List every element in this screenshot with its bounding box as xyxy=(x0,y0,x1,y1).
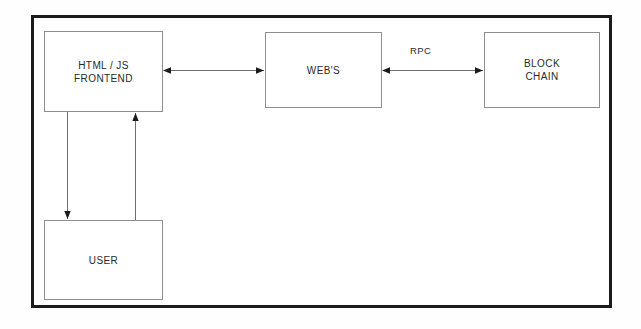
edge-label-rpc: RPC xyxy=(410,45,431,56)
node-webs[interactable]: WEB'S xyxy=(265,32,382,108)
node-blockchain[interactable]: BLOCK CHAIN xyxy=(484,32,600,108)
node-label-webs: WEB'S xyxy=(307,64,340,77)
node-label-user: USER xyxy=(89,254,118,267)
node-user[interactable]: USER xyxy=(44,220,163,300)
node-label-blockchain: BLOCK CHAIN xyxy=(524,57,560,83)
node-label-frontend: HTML / JS FRONTEND xyxy=(74,59,133,85)
diagram-canvas: HTML / JS FRONTEND WEB'S BLOCK CHAIN USE… xyxy=(0,0,641,329)
node-html-js-frontend[interactable]: HTML / JS FRONTEND xyxy=(44,31,163,112)
